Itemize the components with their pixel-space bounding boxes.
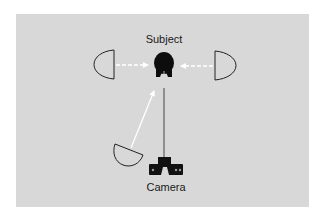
- camera-label: Camera: [146, 182, 185, 193]
- subject-head-icon: [154, 52, 174, 78]
- lamp-left-icon: [94, 50, 114, 79]
- lamp-front-left-icon: [114, 144, 143, 166]
- camera-icon: [149, 157, 183, 175]
- subject-label: Subject: [146, 34, 183, 45]
- light-beam-front: [131, 91, 154, 148]
- lamp-right-icon: [215, 51, 236, 80]
- lighting-diagram: Subject Camera: [0, 0, 327, 217]
